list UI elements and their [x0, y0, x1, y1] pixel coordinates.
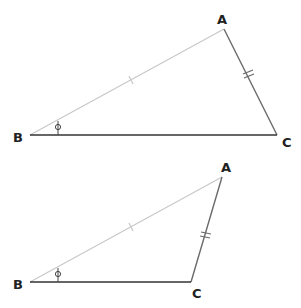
triangles-diagram: A B C A B C	[0, 0, 301, 308]
label-a-top: A	[217, 12, 227, 27]
side-ba-top	[30, 29, 224, 135]
side-ba-bottom	[30, 177, 222, 282]
tick-ac-top-2	[244, 74, 254, 78]
label-c-bottom: C	[192, 286, 202, 301]
label-b-top: B	[13, 130, 23, 145]
label-b-bottom: B	[13, 277, 23, 292]
label-c-top: C	[282, 135, 292, 150]
triangle-bottom: A B C	[13, 160, 231, 301]
side-ac-bottom	[191, 177, 222, 282]
label-a-bottom: A	[221, 160, 231, 175]
side-ac-top	[224, 29, 277, 135]
triangle-top: A B C	[13, 12, 292, 150]
